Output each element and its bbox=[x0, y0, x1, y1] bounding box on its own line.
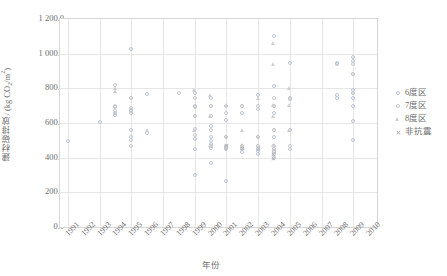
data-point bbox=[209, 139, 213, 143]
data-point bbox=[272, 147, 276, 151]
data-point bbox=[272, 144, 276, 148]
gridline-horizontal bbox=[60, 123, 377, 124]
data-point bbox=[335, 96, 339, 100]
data-point bbox=[208, 114, 212, 118]
data-point bbox=[271, 114, 275, 118]
gridline-horizontal bbox=[60, 158, 377, 159]
y-axis-tick: 400.0 bbox=[0, 153, 64, 162]
data-point bbox=[272, 150, 276, 154]
data-point bbox=[240, 104, 244, 108]
y-axis-tick: 200.0 bbox=[0, 187, 64, 196]
data-point bbox=[271, 62, 275, 66]
data-point bbox=[240, 144, 244, 148]
legend-label: 6度区 bbox=[405, 88, 427, 97]
legend-marker-triangle-icon bbox=[393, 113, 404, 124]
data-point bbox=[272, 111, 276, 115]
gridline-vertical bbox=[195, 19, 196, 227]
x-axis-label: 年份 bbox=[202, 258, 220, 270]
plot-area bbox=[59, 18, 378, 228]
gridline-vertical bbox=[68, 19, 69, 227]
data-point bbox=[272, 144, 276, 148]
data-point bbox=[272, 149, 276, 153]
gridline-vertical bbox=[226, 19, 227, 227]
data-point bbox=[240, 146, 244, 150]
data-point bbox=[208, 143, 212, 147]
data-point bbox=[145, 92, 149, 96]
data-point bbox=[113, 113, 117, 117]
data-point bbox=[271, 103, 275, 107]
data-point bbox=[335, 93, 339, 97]
data-point bbox=[209, 161, 213, 165]
data-point bbox=[240, 147, 244, 151]
data-point bbox=[209, 135, 213, 139]
data-point bbox=[145, 128, 149, 132]
data-point bbox=[209, 142, 213, 146]
legend-label: 非抗震 bbox=[405, 127, 432, 136]
data-point bbox=[240, 128, 244, 132]
legend-marker-circle-icon bbox=[393, 100, 404, 111]
data-point bbox=[177, 91, 181, 95]
data-point bbox=[272, 104, 276, 108]
gridline-vertical bbox=[290, 19, 291, 227]
data-point bbox=[272, 34, 276, 38]
data-point bbox=[272, 135, 276, 139]
legend-marker-cross-icon bbox=[393, 126, 404, 137]
data-point bbox=[271, 152, 276, 157]
data-point bbox=[240, 150, 244, 154]
legend-item[interactable]: 6度区 bbox=[393, 86, 447, 99]
data-point bbox=[272, 152, 276, 156]
gridline-vertical bbox=[353, 19, 354, 227]
data-point bbox=[272, 96, 276, 100]
data-point bbox=[209, 128, 213, 132]
legend-item[interactable]: 7度区 bbox=[393, 99, 447, 112]
data-point bbox=[209, 124, 213, 128]
data-point bbox=[335, 62, 339, 66]
data-point bbox=[240, 111, 244, 115]
data-point bbox=[335, 61, 339, 65]
data-point bbox=[113, 109, 117, 113]
data-point bbox=[113, 111, 117, 115]
data-point bbox=[240, 144, 244, 148]
data-point bbox=[271, 41, 275, 45]
y-axis-tick: 600.0 bbox=[0, 118, 64, 127]
gridline-vertical bbox=[322, 19, 323, 227]
data-point bbox=[240, 146, 245, 151]
gridline-horizontal bbox=[60, 88, 377, 89]
data-point bbox=[272, 128, 276, 132]
gridline-vertical bbox=[100, 19, 101, 227]
data-point bbox=[113, 89, 117, 93]
data-point bbox=[272, 147, 276, 151]
legend: 6度区7度区8度区非抗震 bbox=[393, 86, 447, 138]
y-axis-tick: 1 200.0 bbox=[0, 14, 64, 23]
gridline-vertical bbox=[163, 19, 164, 227]
y-axis-tick: 800.0 bbox=[0, 83, 64, 92]
y-axis-tick: 1 000.0 bbox=[0, 49, 64, 58]
y-axis-label: 建材碳排放/ (kg CO2/m2) bbox=[0, 68, 14, 161]
data-point bbox=[208, 93, 212, 97]
legend-label: 7度区 bbox=[405, 101, 427, 110]
gridline-vertical bbox=[131, 19, 132, 227]
data-point bbox=[145, 131, 149, 135]
y-axis-tick: 0.0 bbox=[0, 222, 64, 231]
legend-item[interactable]: 8度区 bbox=[393, 112, 447, 125]
gridline-vertical bbox=[258, 19, 259, 227]
data-point bbox=[209, 104, 213, 108]
legend-item[interactable]: 非抗震 bbox=[393, 125, 447, 138]
data-point bbox=[113, 105, 117, 109]
data-point bbox=[271, 143, 275, 147]
data-point bbox=[240, 143, 244, 147]
scatter-chart-figure: 建材碳排放/ (kg CO2/m2) 0.0200.0400.0600.0800… bbox=[0, 0, 447, 276]
data-point bbox=[113, 83, 117, 87]
data-point bbox=[209, 144, 213, 148]
gridline-horizontal bbox=[60, 192, 377, 193]
data-point bbox=[209, 96, 213, 100]
legend-marker-circle-icon bbox=[393, 87, 404, 98]
data-point bbox=[113, 104, 117, 108]
data-point bbox=[240, 104, 244, 108]
data-point bbox=[209, 146, 213, 150]
legend-label: 8度区 bbox=[405, 114, 427, 123]
data-point bbox=[209, 104, 213, 108]
gridline-horizontal bbox=[60, 54, 377, 55]
data-point bbox=[272, 128, 276, 132]
data-point bbox=[272, 104, 276, 108]
